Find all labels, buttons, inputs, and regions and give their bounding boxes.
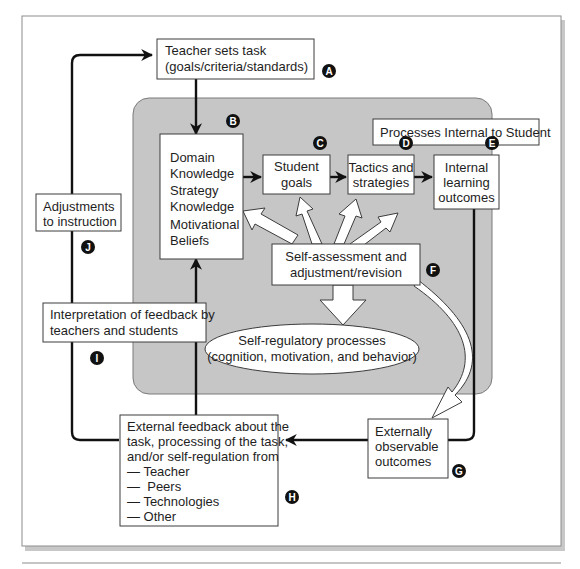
svg-text:strategies: strategies (353, 175, 410, 190)
svg-text:outcomes: outcomes (438, 190, 495, 205)
svg-text:D: D (402, 138, 409, 149)
svg-text:Knowledge: Knowledge (170, 199, 234, 214)
node-self-assessment: Self-assessment and adjustment/revision (272, 244, 420, 285)
svg-text:Externally: Externally (375, 424, 433, 439)
badge-b: B (226, 114, 240, 128)
svg-text:External feedback about the: External feedback about the (127, 419, 289, 434)
badge-h: H (285, 490, 299, 504)
badge-e: E (485, 136, 499, 150)
svg-text:C: C (316, 138, 323, 149)
feedback-model-diagram: Teacher sets task (goals/criteria/standa… (0, 0, 580, 569)
svg-text:J: J (85, 242, 91, 253)
badge-c: C (313, 136, 327, 150)
svg-text:G: G (455, 466, 463, 477)
node-student-goals: Student goals (263, 155, 330, 194)
svg-text:to instruction: to instruction (43, 214, 117, 229)
svg-text:goals: goals (281, 175, 313, 190)
svg-text:A: A (325, 66, 332, 77)
svg-text:E: E (489, 138, 496, 149)
svg-text:H: H (288, 492, 295, 503)
svg-text:task, processing of the task,: task, processing of the task, (127, 434, 288, 449)
svg-text:Knowledge: Knowledge (170, 166, 234, 181)
svg-text:learning: learning (443, 175, 489, 190)
node-adjustments-to-instruction: Adjustments to instruction (36, 194, 121, 231)
node-internal-learning-outcomes: Internal learning outcomes (434, 155, 499, 209)
svg-text:Strategy: Strategy (170, 183, 219, 198)
svg-text:B: B (229, 116, 236, 127)
node-externally-observable-outcomes: Externally observable outcomes (368, 419, 448, 478)
svg-text:— Teacher: — Teacher (127, 464, 190, 479)
svg-text:Adjustments: Adjustments (43, 199, 115, 214)
badge-g: G (452, 464, 466, 478)
svg-text:Self-regulatory processes: Self-regulatory processes (238, 333, 386, 348)
node-knowledge-beliefs: Domain Knowledge Strategy Knowledge Moti… (160, 134, 243, 259)
svg-text:Beliefs: Beliefs (170, 233, 210, 248)
svg-text:Tactics and: Tactics and (348, 160, 413, 175)
svg-text:Domain: Domain (170, 150, 215, 165)
node-tactics-strategies: Tactics and strategies (348, 155, 414, 194)
badge-i: I (90, 351, 104, 365)
svg-text:teachers and students: teachers and students (50, 323, 178, 338)
svg-text:adjustment/revision: adjustment/revision (290, 265, 402, 280)
badge-f: F (426, 263, 440, 277)
svg-text:Self-assessment and: Self-assessment and (285, 249, 406, 264)
svg-text:observable: observable (375, 439, 439, 454)
svg-text:F: F (430, 265, 436, 276)
node-teacher-sets-task: Teacher sets task (goals/criteria/standa… (157, 39, 314, 79)
badge-a: A (322, 64, 336, 78)
badge-d: D (399, 136, 413, 150)
svg-text:and/or self-regulation from: and/or self-regulation from (127, 449, 279, 464)
svg-text:Motivational: Motivational (170, 217, 239, 232)
node-external-feedback: External feedback about the task, proces… (120, 415, 289, 526)
svg-text:Student: Student (274, 159, 319, 174)
svg-text:— Technologies: — Technologies (127, 494, 220, 509)
badge-j: J (81, 240, 95, 254)
svg-text:Teacher sets task: Teacher sets task (165, 43, 267, 58)
svg-text:Internal: Internal (445, 160, 488, 175)
svg-text:— Other: — Other (127, 509, 177, 524)
svg-text:— Peers: — Peers (127, 479, 182, 494)
svg-text:(goals/criteria/standards): (goals/criteria/standards) (165, 59, 308, 74)
svg-text:(cognition, motivation, and be: (cognition, motivation, and behavior) (207, 349, 417, 364)
svg-text:outcomes: outcomes (375, 454, 432, 469)
node-interpretation-of-feedback: Interpretation of feedback by teachers a… (43, 303, 215, 342)
svg-text:I: I (96, 353, 99, 364)
svg-text:Interpretation of feedback by: Interpretation of feedback by (50, 307, 215, 322)
node-self-regulatory-processes: Self-regulatory processes (cognition, mo… (205, 324, 419, 374)
